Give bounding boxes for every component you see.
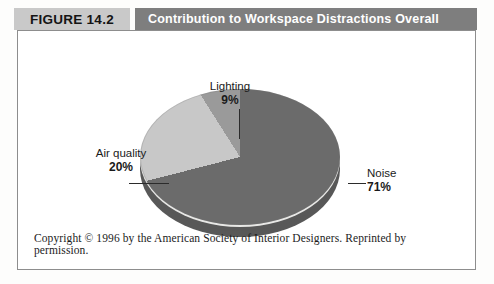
figure-container: FIGURE 14.2 Contribution to Workspace Di…: [0, 0, 494, 284]
pie-slice-name-air-quality: Air quality: [96, 147, 147, 159]
leader-line-air-quality: [129, 183, 169, 184]
figure-header: FIGURE 14.2 Contribution to Workspace Di…: [14, 8, 477, 30]
copyright-note: Copyright © 1996 by the American Society…: [34, 232, 461, 256]
figure-number-tag: FIGURE 14.2: [14, 8, 130, 30]
pie-slice-label-lighting: Lighting 9%: [194, 79, 266, 108]
leader-line-noise: [348, 183, 366, 184]
pie-slice-value-noise: 71%: [367, 180, 427, 195]
pie-slice-name-lighting: Lighting: [210, 80, 250, 92]
figure-title: Contribution to Workspace Distractions O…: [135, 8, 477, 30]
pie-slice-label-air-quality: Air quality 20%: [76, 146, 166, 175]
pie-graphic: [140, 89, 340, 237]
pie-slice-label-noise: Noise 71%: [367, 166, 427, 195]
pie-slice-value-air-quality: 20%: [76, 160, 166, 175]
pie-chart: Lighting 9% Air quality 20% Noise 71%: [18, 31, 477, 236]
leader-line-lighting: [239, 109, 240, 139]
pie-top-face: [140, 89, 340, 225]
figure-frame: Lighting 9% Air quality 20% Noise 71% Co…: [17, 30, 476, 270]
pie-slice-value-lighting: 9%: [194, 93, 266, 108]
pie-slice-name-noise: Noise: [367, 167, 396, 179]
